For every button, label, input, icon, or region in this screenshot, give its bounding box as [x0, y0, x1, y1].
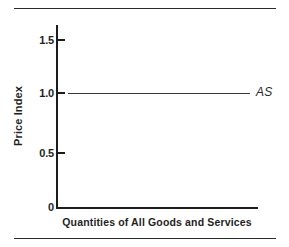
bottom-divider-rule: [14, 238, 276, 239]
x-axis-title: Quantities of All Goods and Services: [56, 216, 258, 228]
y-axis-line: [56, 25, 58, 209]
top-divider-rule: [14, 8, 276, 9]
y-axis-tick-1-0: [58, 92, 65, 94]
aggregate-supply-label: AS: [256, 86, 273, 98]
y-axis-tick-1-5: [58, 39, 65, 41]
aggregate-supply-line: [68, 93, 250, 94]
figure-container: 1.5 1.0 0.5 0 Price Index AS Quantities …: [0, 0, 289, 247]
y-axis-tick-label-1-0: 1.0: [39, 88, 54, 99]
x-axis-line: [56, 207, 258, 209]
y-axis-tick-label-0-5: 0.5: [39, 148, 54, 159]
y-axis-tick-label-1-5: 1.5: [39, 35, 54, 46]
y-axis-tick-label-0: 0: [48, 202, 54, 213]
y-axis-title: Price Index: [12, 72, 24, 160]
y-axis-tick-0-5: [58, 152, 65, 154]
